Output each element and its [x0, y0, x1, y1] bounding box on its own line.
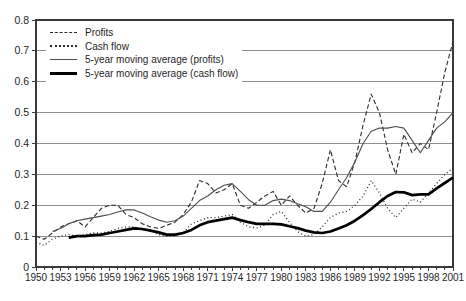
- x-tick-label: 1998: [417, 272, 440, 283]
- thick-solid-line-sample-icon: [50, 72, 77, 75]
- legend-item-profits: Profits: [50, 26, 238, 40]
- y-tick-label: 0: [23, 261, 29, 273]
- x-tick-label: 1980: [270, 272, 293, 283]
- x-tick-label: 1968: [172, 272, 195, 283]
- chart-figure: 00.10.20.30.40.50.60.70.8195019531956195…: [0, 0, 466, 301]
- legend-label: Profits: [85, 26, 113, 40]
- x-tick-label: 1995: [393, 272, 416, 283]
- y-tick-label: 0.5: [14, 106, 29, 118]
- x-tick-label: 1959: [98, 272, 121, 283]
- legend-label: Cash flow: [85, 40, 129, 54]
- thin-solid-line-sample-icon: [50, 59, 77, 60]
- x-tick-label: 2001: [442, 272, 465, 283]
- x-tick-label: 1989: [344, 272, 367, 283]
- x-tick-label: 1953: [49, 272, 72, 283]
- y-tick-label: 0.3: [14, 168, 29, 180]
- series-2: [52, 113, 453, 232]
- y-tick-label: 0.8: [14, 14, 29, 26]
- y-tick-label: 0.6: [14, 75, 29, 87]
- legend-item-cash-flow: Cash flow: [50, 40, 238, 54]
- y-tick-label: 0.4: [14, 137, 29, 149]
- y-tick-label: 0.2: [14, 199, 29, 211]
- x-tick-label: 1965: [148, 272, 171, 283]
- x-tick-label: 1974: [221, 272, 244, 283]
- x-tick-label: 1950: [25, 272, 48, 283]
- series-3: [69, 178, 453, 238]
- y-axis: 00.10.20.30.40.50.60.70.8: [14, 14, 36, 273]
- legend-label: 5-year moving average (profits): [85, 53, 224, 67]
- legend: Profits Cash flow 5-year moving average …: [46, 25, 242, 82]
- legend-label: 5-year moving average (cash flow): [85, 67, 238, 81]
- x-tick-label: 1986: [319, 272, 342, 283]
- x-tick-label: 1992: [368, 272, 391, 283]
- x-tick-label: 1983: [295, 272, 318, 283]
- legend-item-ma-cash-flow: 5-year moving average (cash flow): [50, 67, 238, 81]
- y-tick-label: 0.1: [14, 230, 29, 242]
- y-tick-label: 0.7: [14, 44, 29, 56]
- x-tick-label: 1977: [246, 272, 269, 283]
- x-tick-label: 1971: [197, 272, 220, 283]
- x-axis: 1950195319561959196219651968197119741977…: [25, 267, 465, 283]
- dashed-line-sample-icon: [50, 32, 77, 33]
- dotted-line-sample-icon: [50, 45, 77, 47]
- x-tick-label: 1962: [123, 272, 146, 283]
- x-tick-label: 1956: [74, 272, 97, 283]
- legend-item-ma-profits: 5-year moving average (profits): [50, 53, 238, 67]
